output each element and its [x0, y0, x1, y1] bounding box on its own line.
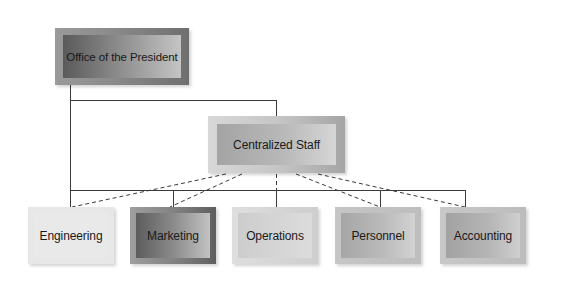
node-centralized-staff: Centralized Staff — [208, 116, 345, 173]
node-inner: Operations — [238, 213, 312, 258]
node-label: Operations — [246, 229, 304, 243]
node-marketing: Marketing — [130, 207, 216, 264]
node-inner: Office of the President — [63, 35, 181, 78]
node-operations: Operations — [232, 207, 318, 264]
node-label: Engineering — [40, 229, 103, 243]
node-inner: Marketing — [136, 213, 210, 258]
node-inner: Engineering — [34, 213, 108, 258]
node-inner: Centralized Staff — [217, 124, 336, 165]
node-label: Accounting — [454, 229, 512, 243]
node-engineering: Engineering — [28, 207, 114, 264]
node-label: Office of the President — [66, 51, 177, 63]
node-office-of-the-president: Office of the President — [55, 28, 189, 85]
node-label: Personnel — [351, 229, 404, 243]
node-inner: Personnel — [341, 213, 415, 258]
node-label: Marketing — [147, 229, 199, 243]
node-accounting: Accounting — [440, 207, 526, 264]
node-inner: Accounting — [446, 213, 520, 258]
node-personnel: Personnel — [335, 207, 421, 264]
org-chart: Office of the President Centralized Staf… — [0, 0, 563, 285]
node-label: Centralized Staff — [233, 138, 320, 152]
